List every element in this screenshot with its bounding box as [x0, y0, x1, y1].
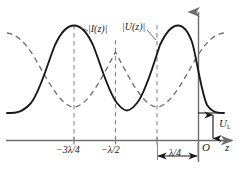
standing-wave-figure: |I(z)| |U(z)| −3λ/4 −λ/2 λ/4 O z UL	[0, 0, 243, 173]
x-tick-label-3lambda4: −3λ/4	[56, 145, 80, 155]
voltage-label-leader	[147, 30, 156, 40]
load-voltage-label: U	[219, 117, 227, 129]
voltage-curve-label: |U(z)|	[122, 22, 145, 32]
load-voltage-subscript: L	[227, 124, 231, 130]
current-curve-label: |I(z)|	[88, 24, 107, 34]
origin-label: O	[202, 142, 210, 153]
current-envelope	[7, 26, 224, 114]
z-axis-label: z	[225, 142, 229, 153]
x-tick-label-lambda2: −λ/2	[101, 145, 120, 155]
quarter-wave-span-label: λ/4	[169, 148, 181, 158]
